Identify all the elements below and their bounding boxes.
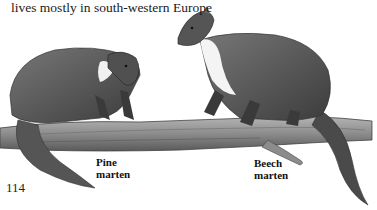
page-number: 114 [6, 180, 25, 196]
marten-illustration [0, 0, 377, 210]
pine-marten-label-line1: Pine [96, 156, 130, 168]
pine-marten-label: Pine marten [96, 156, 130, 180]
beech-marten-label-line1: Beech [254, 157, 288, 169]
beech-marten-label: Beech marten [254, 157, 288, 181]
beech-marten-label-line2: marten [254, 169, 288, 181]
pine-marten-label-line2: marten [96, 168, 130, 180]
caption-text: lives mostly in south-western Europe [11, 0, 212, 16]
